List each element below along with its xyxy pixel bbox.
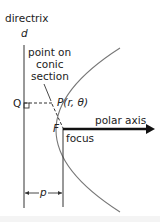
p-arrowhead-right [58,191,62,195]
point-p-label: P(r, θ) [57,97,88,108]
focus-label: focus [66,133,94,144]
directrix-label: directrix [5,13,48,24]
p-arrowhead-left [25,191,29,195]
label-leader-line [44,84,51,101]
q-label: Q [13,98,21,109]
polar-axis-label: polar axis [95,115,146,126]
point-on-conic-label-1: point on [28,47,71,58]
bottom-strip [0,216,160,222]
directrix-d-label: d [21,28,28,39]
point-on-conic-label-3: section [31,71,69,82]
point-on-conic-label-2: conic [36,59,64,70]
focus-f-label: F [53,123,59,134]
right-angle-marker [24,103,29,108]
p-distance-label: p [40,187,47,198]
polar-axis-arrowhead [146,124,155,134]
